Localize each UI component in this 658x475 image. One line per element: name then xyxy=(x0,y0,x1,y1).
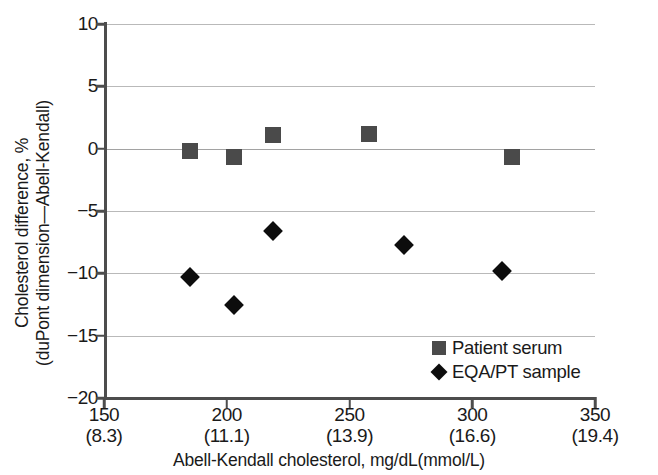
y-axis-tick-mark xyxy=(96,210,107,213)
x-axis-tick-label: 250(13.9) xyxy=(290,404,410,447)
y-axis-tick-label: 10 xyxy=(40,13,98,35)
x-axis-tick-value: 300 xyxy=(412,404,532,425)
data-point-square xyxy=(504,149,520,165)
x-axis-tick-value: 150 xyxy=(44,404,164,425)
legend-label-eqa-pt-sample: EQA/PT sample xyxy=(450,362,580,382)
y-axis-tick-mark xyxy=(96,272,107,275)
diamond-marker-icon xyxy=(428,366,450,378)
gridline xyxy=(104,211,595,212)
gridline xyxy=(104,149,595,150)
square-marker-icon xyxy=(428,341,450,355)
gridline xyxy=(104,273,595,274)
x-axis-tick-label: 200(11.1) xyxy=(167,404,287,447)
x-axis-tick-label: 150(8.3) xyxy=(44,404,164,447)
y-axis-title-line1: Cholesterol difference, % xyxy=(12,23,33,443)
x-axis-tick-sublabel: (8.3) xyxy=(44,425,164,446)
x-axis-tick-value: 200 xyxy=(167,404,287,425)
data-point-square xyxy=(265,127,281,143)
x-axis-tick-sublabel: (16.6) xyxy=(412,425,532,446)
y-axis-tick-label: 5 xyxy=(40,75,98,97)
gridline xyxy=(104,24,595,25)
y-axis-tick-label: 0 xyxy=(40,138,98,160)
gridline xyxy=(104,86,595,87)
data-point-diamond xyxy=(394,235,414,255)
y-axis-tick-mark xyxy=(96,397,107,400)
data-point-square xyxy=(361,126,377,142)
data-point-diamond xyxy=(492,261,512,281)
data-point-square xyxy=(226,149,242,165)
y-axis-tick-label: −15 xyxy=(40,325,98,347)
y-axis-tick-mark xyxy=(96,334,107,337)
y-axis-tick-label: −5 xyxy=(40,200,98,222)
x-axis-tick-sublabel: (19.4) xyxy=(535,425,655,446)
data-point-diamond xyxy=(180,267,200,287)
data-point-diamond xyxy=(263,221,283,241)
chart-figure: Cholesterol difference, % (duPont dimens… xyxy=(0,0,658,475)
data-point-square xyxy=(182,143,198,159)
y-axis-tick-label: −10 xyxy=(40,262,98,284)
chart-legend: Patient serum EQA/PT sample xyxy=(428,336,580,384)
x-axis-title: Abell-Kendall cholesterol, mg/dL(mmol/L) xyxy=(0,450,658,471)
x-axis-tick-sublabel: (13.9) xyxy=(290,425,410,446)
y-axis-tick-mark xyxy=(96,23,107,26)
legend-label-patient-serum: Patient serum xyxy=(450,338,562,358)
x-axis-tick-sublabel: (11.1) xyxy=(167,425,287,446)
y-axis-tick-mark xyxy=(96,85,107,88)
legend-item-eqa-pt-sample: EQA/PT sample xyxy=(428,360,580,384)
y-axis-tick-mark xyxy=(96,147,107,150)
x-axis-tick-value: 350 xyxy=(535,404,655,425)
x-axis-tick-label: 350(19.4) xyxy=(535,404,655,447)
x-axis-tick-label: 300(16.6) xyxy=(412,404,532,447)
legend-item-patient-serum: Patient serum xyxy=(428,336,580,360)
x-axis-tick-value: 250 xyxy=(290,404,410,425)
data-point-diamond xyxy=(224,295,244,315)
